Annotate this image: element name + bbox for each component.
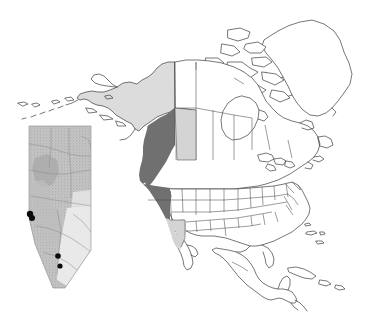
- inset-site-marker: [57, 263, 62, 268]
- alberta-inset-panel: [13, 122, 97, 290]
- map-figure: [0, 0, 378, 324]
- highlight-alberta: [175, 108, 196, 160]
- alberta-inset-map: [13, 122, 97, 290]
- inset-site-marker: [55, 253, 61, 259]
- inset-lowland-north: [71, 190, 91, 212]
- inset-site-marker: [29, 215, 35, 221]
